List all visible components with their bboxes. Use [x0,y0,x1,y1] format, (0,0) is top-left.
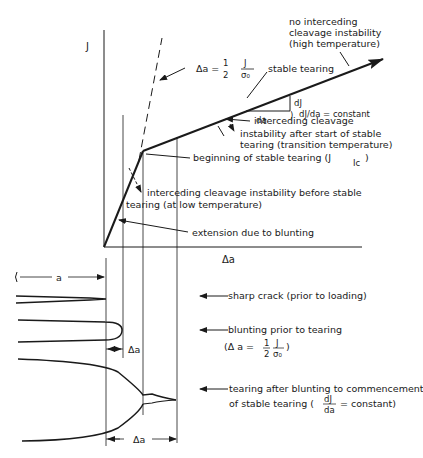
svg-text:σ₀: σ₀ [273,349,282,359]
blunting-line-dashed [139,38,162,160]
blunted-crack-shape: Δa [18,320,140,355]
svg-text:interceding cleavage: interceding cleavage [254,115,354,126]
svg-text:tearing (transition temperatur: tearing (transition temperature) [240,139,392,150]
svg-text:of stable tearing (: of stable tearing ( [229,398,314,409]
slope-dj-label: dJ [294,98,302,108]
sharp-crack-label: sharp crack (prior to loading) [228,290,367,301]
crack-drawings: a sharp crack (prior to loading) Δa blun… [16,272,423,445]
tearing-equation: of stable tearing ( dJ da = constant) [229,394,396,415]
svg-text:2: 2 [264,349,269,359]
svg-text:no interceding: no interceding [289,16,358,27]
crack-length-dimension: a [16,272,105,283]
svg-text:2: 2 [223,70,228,80]
svg-text:J: J [243,58,247,68]
tearing-label: tearing after blunting to commencement [229,383,423,394]
cleavage-low-temp-annotation: interceding cleavage instability before … [126,168,362,210]
svg-text:J: J [275,338,279,348]
projection-lines [106,115,177,446]
svg-text:Δa =: Δa = [196,63,219,74]
svg-text:stable tearing: stable tearing [268,63,334,74]
j-delta-a-plot: J Δa dJ da ) dJ/da = constant no interce… [85,16,392,265]
svg-text:(high temperature): (high temperature) [289,38,380,49]
j-axis-label: J [85,41,89,52]
svg-text:a: a [56,272,62,283]
svg-text:): ) [286,341,290,352]
svg-text:Δa: Δa [128,344,140,355]
svg-text:da: da [324,405,335,415]
stable-tearing-annotation: stable tearing [247,63,334,98]
blunting-extension-annotation: extension due to blunting [119,220,314,238]
svg-text:Ic: Ic [353,158,361,168]
svg-text:dJ: dJ [324,394,332,404]
sharp-crack-shape [16,296,106,303]
cleavage-transition-annotation: interceding cleavage instability after s… [218,115,392,150]
svg-text:(Δ a =: (Δ a = [224,341,254,352]
torn-crack-shape: Δa [18,359,176,445]
no-cleavage-annotation: no interceding cleavage instability (hig… [289,16,382,66]
svg-text:σ₀: σ₀ [241,70,250,80]
svg-text:1: 1 [264,338,269,348]
j-resistance-diagram: J Δa dJ da ) dJ/da = constant no interce… [0,0,423,458]
svg-text:tearing (at low temperature): tearing (at low temperature) [126,199,262,210]
svg-text:= constant): = constant) [340,398,396,409]
svg-text:): ) [365,152,369,163]
jic-annotation: beginning of stable tearing (J Ic ) [146,152,369,168]
blunting-label: blunting prior to tearing [228,324,342,335]
blunting-equation: (Δ a = 1 1 2 J σ₀ ) [224,338,290,359]
svg-text:interceding cleavage instabili: interceding cleavage instability before … [147,187,362,198]
svg-text:Δa: Δa [133,434,145,445]
svg-text:1: 1 [223,58,228,68]
svg-text:instability after start of sta: instability after start of stable [240,128,381,139]
svg-text:extension due to blunting: extension due to blunting [192,227,314,238]
delta-a-axis-label: Δa [222,254,235,265]
svg-text:cleavage instability: cleavage instability [289,27,382,38]
svg-text:beginning of stable tearing (J: beginning of stable tearing (J [193,152,331,163]
blunting-line-equation: Δa = 1 2 J σ₀ [160,58,254,80]
